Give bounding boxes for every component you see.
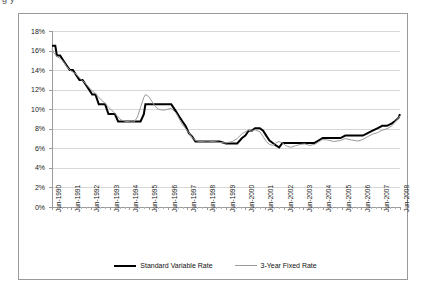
x-axis-tick xyxy=(284,207,285,210)
cropped-title: g y xyxy=(0,0,431,12)
x-axis-tick xyxy=(52,207,53,210)
x-axis-minor-tick xyxy=(125,207,126,209)
x-axis-minor-tick xyxy=(241,207,242,209)
y-axis-tick-label: 0% xyxy=(5,204,45,211)
x-axis-minor-tick xyxy=(357,207,358,209)
x-axis-tick xyxy=(361,207,362,210)
x-axis-minor-tick xyxy=(395,207,396,209)
y-axis-tick-label: 8% xyxy=(5,125,45,132)
x-axis-minor-tick xyxy=(139,207,140,209)
y-axis-tick-label: 6% xyxy=(5,145,45,152)
x-axis-minor-tick xyxy=(260,207,261,209)
x-axis-minor-tick xyxy=(197,207,198,209)
series-line-3-year-fixed-rate xyxy=(52,49,400,148)
x-axis-minor-tick xyxy=(67,207,68,209)
x-axis-tick xyxy=(129,207,130,210)
x-axis-tick xyxy=(342,207,343,210)
chart-screenshot: g y 0%2%4%6%8%10%12%14%16%18% Jun-1990Ju… xyxy=(0,0,431,292)
x-axis-tick xyxy=(400,207,401,210)
x-axis-tick xyxy=(323,207,324,210)
x-axis-minor-tick xyxy=(202,207,203,209)
x-axis-minor-tick xyxy=(313,207,314,209)
x-axis-minor-tick xyxy=(371,207,372,209)
y-axis-tick-label: 16% xyxy=(5,47,45,54)
y-axis-tick-label: 4% xyxy=(5,164,45,171)
x-axis-minor-tick xyxy=(221,207,222,209)
x-axis-minor-tick xyxy=(100,207,101,209)
x-axis-tick xyxy=(381,207,382,210)
legend-swatch-3-year-fixed-rate xyxy=(235,265,257,266)
x-axis-tick xyxy=(265,207,266,210)
x-axis-minor-tick xyxy=(158,207,159,209)
x-axis-tick xyxy=(110,207,111,210)
x-axis-minor-tick xyxy=(86,207,87,209)
x-axis-tick xyxy=(207,207,208,210)
x-axis-minor-tick xyxy=(255,207,256,209)
cropped-title-text: g y xyxy=(0,0,431,5)
legend-item-standard-variable-rate: Standard Variable Rate xyxy=(114,262,212,269)
x-axis-minor-tick xyxy=(299,207,300,209)
x-axis-minor-tick xyxy=(279,207,280,209)
x-axis-tick xyxy=(91,207,92,210)
x-axis-minor-tick xyxy=(274,207,275,209)
series-line-standard-variable-rate xyxy=(52,46,400,148)
x-axis-tick xyxy=(303,207,304,210)
x-axis-tick xyxy=(187,207,188,210)
x-axis-minor-tick xyxy=(81,207,82,209)
x-axis-tick xyxy=(71,207,72,210)
y-axis-tick-label: 18% xyxy=(5,28,45,35)
x-axis-tick xyxy=(226,207,227,210)
x-axis-minor-tick xyxy=(183,207,184,209)
x-axis-tick-label: Jun-2008 xyxy=(403,185,410,212)
y-axis-tick-label: 10% xyxy=(5,106,45,113)
x-axis-minor-tick xyxy=(376,207,377,209)
x-axis-tick xyxy=(245,207,246,210)
x-axis-minor-tick xyxy=(337,207,338,209)
legend-swatch-standard-variable-rate xyxy=(114,265,136,267)
x-axis-minor-tick xyxy=(390,207,391,209)
y-axis-tick-label: 14% xyxy=(5,67,45,74)
x-axis-tick xyxy=(168,207,169,210)
x-axis-minor-tick xyxy=(332,207,333,209)
x-axis-minor-tick xyxy=(105,207,106,209)
chart-legend: Standard Variable Rate 3-Year Fixed Rate xyxy=(0,262,431,269)
legend-label-3-year-fixed-rate: 3-Year Fixed Rate xyxy=(261,262,317,269)
x-axis-tick xyxy=(149,207,150,210)
x-axis-minor-tick xyxy=(144,207,145,209)
y-axis-tick-label: 2% xyxy=(5,184,45,191)
x-axis-minor-tick xyxy=(216,207,217,209)
legend-item-3-year-fixed-rate: 3-Year Fixed Rate xyxy=(235,262,317,269)
series-plot xyxy=(52,31,400,207)
x-axis-minor-tick xyxy=(163,207,164,209)
y-axis-tick-label: 12% xyxy=(5,86,45,93)
x-axis-minor-tick xyxy=(318,207,319,209)
legend-label-standard-variable-rate: Standard Variable Rate xyxy=(140,262,212,269)
